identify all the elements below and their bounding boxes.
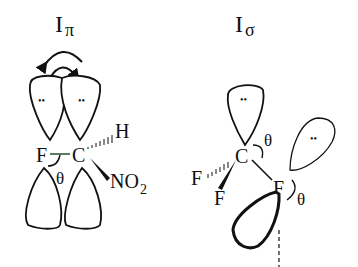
lone-pair-f: ••: [310, 133, 317, 144]
angle-theta-top: θ: [264, 131, 272, 150]
title-i-pi-sub: π: [65, 20, 74, 40]
p-orbital-upper-left-icon: [30, 76, 65, 140]
atom-h: H: [115, 120, 129, 142]
wedge-bond-f-down: [218, 160, 236, 190]
wedge-bond-no2: [90, 158, 110, 181]
lone-pair-right: ••: [78, 95, 85, 106]
orbital-f-upper-icon: [290, 118, 335, 170]
atom-c-center: C: [235, 145, 248, 167]
hashed-bond-h: [88, 135, 112, 149]
lone-pair-c: ••: [240, 94, 247, 105]
atom-no: NO: [110, 170, 139, 192]
panel-i-sigma: I σ •• •• C θ F F F θ: [191, 11, 335, 267]
lone-pair-left: ••: [38, 95, 45, 106]
orbital-f-lower-icon: [233, 192, 279, 248]
title-i-pi-main: I: [55, 11, 63, 37]
atom-no2-sub: 2: [140, 182, 147, 197]
angle-arc-top-icon: [253, 145, 263, 158]
angle-theta-right: θ: [297, 190, 305, 209]
angle-theta: θ: [56, 169, 64, 188]
atom-f-hash: F: [191, 167, 202, 189]
angle-arc-right-icon: [287, 180, 295, 200]
atom-f-left: F: [36, 144, 47, 166]
curved-arrow-outer-icon: [44, 52, 82, 66]
title-i-sigma-sub: σ: [245, 20, 255, 40]
atom-c-center: C: [72, 144, 85, 166]
title-i-sigma-main: I: [235, 11, 243, 37]
p-orbital-upper-right-icon: [61, 76, 100, 140]
angle-arc-icon: [48, 155, 60, 166]
atom-f-wedge: F: [214, 187, 225, 209]
hashed-bond-f-left: [208, 162, 228, 178]
p-orbital-lower-right-icon: [65, 168, 101, 229]
cf-bond-right: [252, 160, 272, 180]
orbital-diagram: I π •• •• F C H NO 2 θ: [0, 0, 358, 267]
panel-i-pi: I π •• •• F C H NO 2 θ: [26, 11, 147, 229]
